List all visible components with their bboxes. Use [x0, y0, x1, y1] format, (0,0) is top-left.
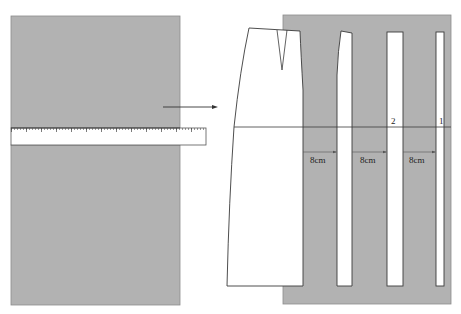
spread-label-1: 8cm [310, 155, 326, 165]
pattern-strip-2 [387, 32, 403, 286]
pattern-strip-1 [337, 31, 352, 286]
fabric-bottom [11, 145, 180, 305]
slash-marker-1: 1 [439, 116, 444, 126]
spread-label-2: 8cm [360, 155, 376, 165]
pattern-diagram: 2 1 8cm 8cm 8cm [0, 0, 461, 314]
fabric-top [11, 16, 180, 128]
spread-label-3: 8cm [409, 155, 425, 165]
pattern-strip-3 [436, 32, 444, 286]
ruler [11, 128, 206, 145]
skirt-pattern-piece [227, 28, 303, 286]
slash-marker-2: 2 [391, 116, 396, 126]
left-fabric-group [11, 16, 206, 305]
